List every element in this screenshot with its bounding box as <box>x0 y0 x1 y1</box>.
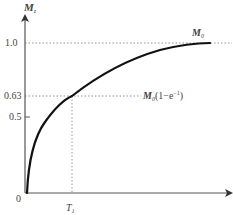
tick-label-1-0: 1.0 <box>5 38 18 48</box>
tick-label-0-63: 0.63 <box>4 91 22 101</box>
m0-one-minus-e-label: M0(1−e−1) <box>143 90 183 102</box>
t1-label: T1 <box>66 203 75 214</box>
y-axis-label: Mz <box>24 2 36 14</box>
magnetization-curve <box>27 43 210 193</box>
origin-label: 0 <box>16 194 21 204</box>
tick-label-0-5: 0.5 <box>9 112 22 122</box>
m0-label: M0 <box>192 28 204 39</box>
